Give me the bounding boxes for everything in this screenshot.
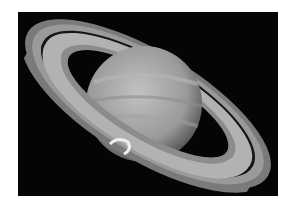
saturn-photo	[18, 12, 278, 196]
saturn-illustration	[18, 12, 278, 196]
